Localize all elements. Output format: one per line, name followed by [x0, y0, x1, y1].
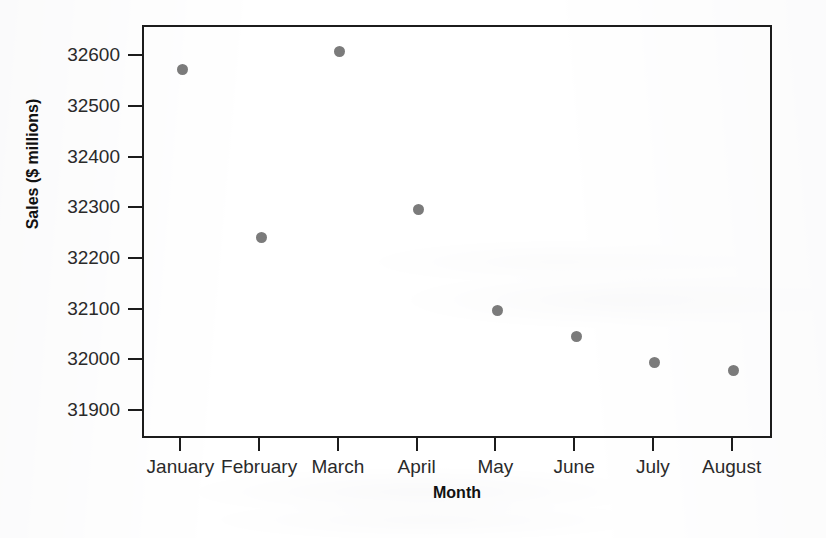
data-point [728, 365, 739, 376]
y-axis-title: Sales ($ millions) [24, 49, 42, 279]
y-axis-tick [128, 358, 142, 360]
x-axis-tick [731, 438, 733, 451]
x-axis-tick [573, 438, 575, 451]
x-axis-tick [258, 438, 260, 451]
data-point [492, 305, 503, 316]
y-axis-tick [128, 206, 142, 208]
y-axis-tick [128, 257, 142, 259]
data-point [334, 46, 345, 57]
y-axis-tick [128, 409, 142, 411]
chart-figure: 3190032000321003220032300324003250032600… [0, 0, 826, 538]
x-axis-tick [652, 438, 654, 451]
x-axis-tick-label: August [662, 456, 802, 478]
x-axis-tick [416, 438, 418, 451]
data-point [177, 64, 188, 75]
data-point [256, 232, 267, 243]
data-point [571, 331, 582, 342]
x-axis-tick [337, 438, 339, 451]
y-axis-tick [128, 308, 142, 310]
y-axis-tick [128, 54, 142, 56]
y-axis-tick-label: 32000 [10, 349, 120, 368]
data-point [413, 204, 424, 215]
data-point [649, 357, 660, 368]
x-axis-tick [494, 438, 496, 451]
y-axis-tick-label: 32100 [10, 299, 120, 318]
y-axis-tick [128, 156, 142, 158]
y-axis-tick [128, 105, 142, 107]
x-axis-tick [179, 438, 181, 451]
x-axis-title: Month [142, 484, 772, 502]
y-axis-tick-label: 31900 [10, 400, 120, 419]
plot-area [142, 25, 772, 438]
